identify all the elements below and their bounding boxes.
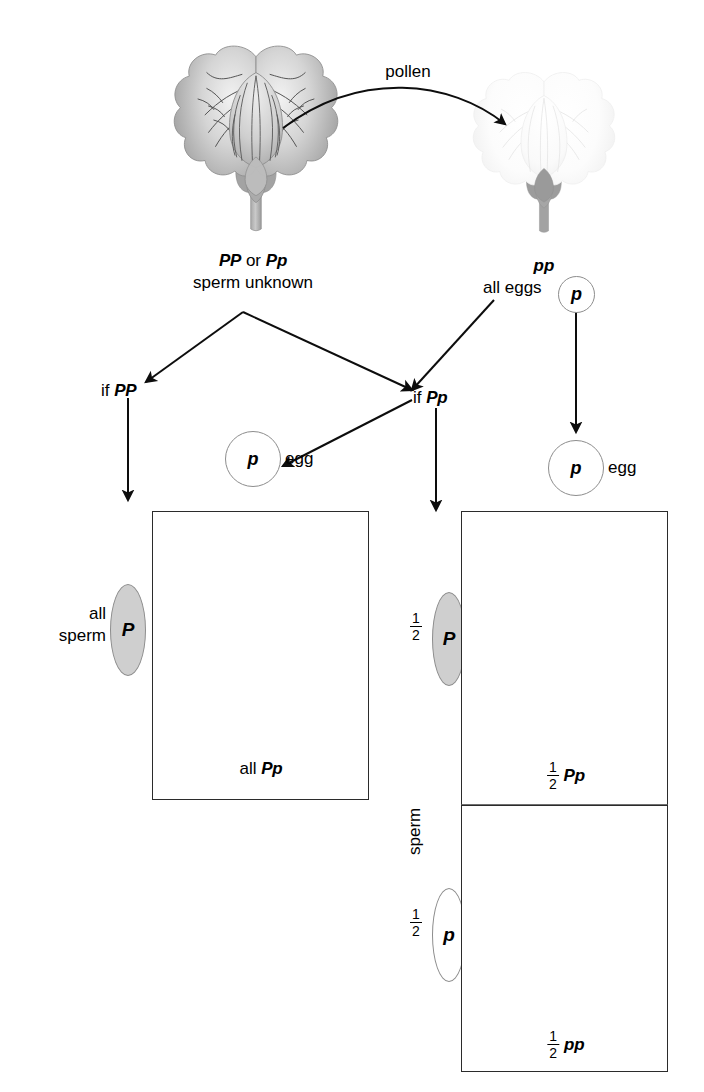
right-cross-row2-frac-num: 1 [410,907,422,922]
middle-egg-circle: p [225,431,281,487]
right-cross-row1-fraction: 1 2 [410,612,422,643]
branch-arrow-to-if-PP [146,312,243,382]
right-cross-row1-off-frac-num: 1 [547,760,559,775]
branch-label-if-Pp: if Pp [413,388,448,408]
branch-right-prefix: if [413,388,426,407]
right-cross-row2-frac-den: 2 [410,922,422,938]
pollen-arrow [283,88,505,128]
left-cross-sperm-gamete: P [110,584,146,676]
left-cross-offspring-label: all Pp [239,759,282,779]
parent-flower-left-purple [174,46,338,231]
right-cross-row1-off-frac-den: 2 [547,775,559,791]
right-cross-row1-offspring-genotype: Pp [564,766,585,785]
parent-right-note: all eggs [483,278,542,298]
right-egg-circle: p [548,440,604,496]
parent-left-genotype-a: PP [219,251,241,270]
right-cross-row1-frac-den: 2 [410,626,422,642]
right-cross-row1-offspring-label: 1 2 Pp [547,761,585,792]
right-cross-row2-off-frac-num: 1 [547,1029,559,1044]
parent-left-conjunction: or [241,251,266,270]
left-cross-sperm-allele: P [122,619,135,641]
middle-egg-allele: p [248,449,259,470]
right-cross-row2-offspring-label: 1 2 pp [547,1030,584,1061]
left-cross-sperm-caption-2: sperm [30,626,106,646]
right-cross-row2-offspring-genotype: pp [564,1035,585,1054]
parent-left-note: sperm unknown [193,273,313,293]
right-cross-row2-sperm-allele: p [443,924,455,946]
left-cross-offspring-genotype: Pp [261,759,282,778]
parent-right-gamete-circle: p [558,276,595,313]
parent-right-genotype: pp [534,256,555,276]
parent-right-gamete-allele: p [571,284,582,305]
right-cross-row1-frac-num: 1 [410,611,422,626]
branch-arrow-to-if-Pp [243,312,412,390]
parent-left-genotype: PP or Pp [219,251,287,271]
middle-egg-label: egg [285,449,313,469]
right-cross-row2-fraction: 1 2 [410,908,422,939]
left-cross-offspring-quantifier: all [239,759,256,778]
right-cross-row1-sperm-allele: P [443,628,456,650]
branch-right-genotype: Pp [426,388,447,407]
left-cross-sperm-caption-1: all [38,604,106,624]
branch-left-genotype: PP [114,381,136,400]
right-egg-label: egg [608,458,636,478]
parent-left-genotype-b: Pp [266,251,287,270]
testcross-diagram: pollen PP or Pp sperm unknown pp all egg… [0,0,704,1092]
right-egg-allele: p [571,458,582,479]
branch-label-if-PP: if PP [101,381,137,401]
egg-branch-arrow-to-if-Pp [412,300,494,390]
right-cross-row2-off-frac-den: 2 [547,1044,559,1060]
pollen-label: pollen [385,62,430,82]
branch-left-prefix: if [101,381,114,400]
parent-flower-right-white [473,73,615,233]
right-cross-sperm-axis-label: sperm [405,808,425,855]
left-cross-offspring-box [152,511,369,800]
